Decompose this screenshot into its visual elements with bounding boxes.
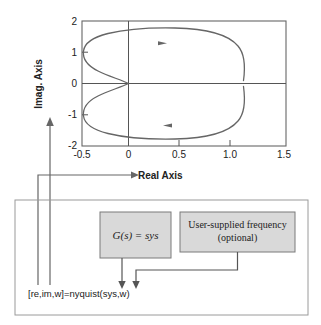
callout-leader-lines — [38, 117, 139, 285]
y-tick-label-minus1: -1 — [68, 109, 77, 120]
frequency-callout-box: User-supplied frequency (optional) — [180, 212, 295, 252]
nyquist-curve-lower — [83, 84, 244, 140]
sys-callout-box-label: G(s) = sys — [113, 229, 159, 242]
x-tick-label-05: 0.5 — [172, 149, 186, 160]
plot-area: 2 1 0 -1 -2 -0.5 0 0.5 1.0 1.5 Imag. Axi… — [33, 16, 291, 181]
syntax-panel: G(s) = sys User-supplied frequency (opti… — [15, 200, 308, 315]
nyquist-curve-upper — [83, 28, 244, 84]
x-tick-label-minus05: -0.5 — [73, 149, 91, 160]
sys-callout-box: G(s) = sys — [100, 212, 171, 258]
command-text: [re,im,w]=nyquist(sys,w) — [28, 288, 130, 299]
x-axis-title: Real Axis — [138, 170, 183, 181]
y-tick-label-0: 0 — [71, 78, 77, 89]
nyquist-figure: 2 1 0 -1 -2 -0.5 0 0.5 1.0 1.5 Imag. Axi… — [0, 0, 321, 325]
upper-branch-direction-arrow-icon — [158, 41, 167, 45]
x-tick-marks — [179, 140, 230, 146]
y-tick-label-2: 2 — [71, 16, 77, 27]
frequency-connector-arrow-icon — [132, 281, 139, 289]
x-tick-label-0: 0 — [126, 149, 132, 160]
lower-branch-direction-arrow-icon — [163, 123, 172, 127]
x-tick-label-10: 1.0 — [223, 149, 237, 160]
x-tick-label-15: 1.5 — [277, 149, 291, 160]
imag-axis-leader-arrow-icon — [46, 117, 54, 126]
frequency-callout-box-label-line2: (optional) — [218, 232, 257, 244]
frequency-callout-box-label-line1: User-supplied frequency — [188, 219, 286, 230]
y-tick-label-1: 1 — [71, 47, 77, 58]
y-axis-title: Imag. Axis — [33, 59, 44, 109]
figure-canvas: 2 1 0 -1 -2 -0.5 0 0.5 1.0 1.5 Imag. Axi… — [0, 0, 321, 325]
